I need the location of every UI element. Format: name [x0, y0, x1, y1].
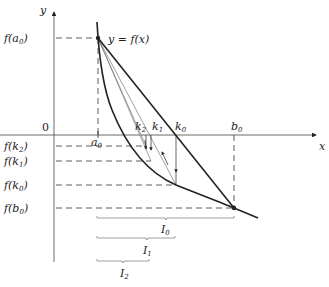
- projection-arrows: [145, 135, 176, 185]
- y-tick-f-k1: f(k1): [3, 155, 28, 169]
- y-tick-f-k0: f(k0): [3, 179, 28, 193]
- interval-brackets: [97, 216, 234, 263]
- curve-label: y = f(x): [107, 33, 149, 46]
- x-tick-k0: k0: [175, 120, 187, 134]
- interval-I2-label: I2: [119, 267, 129, 281]
- point-a0: [96, 36, 100, 40]
- y-tick-f-b0: f(b0): [3, 202, 28, 216]
- x-axis-label: x: [319, 140, 326, 153]
- interval-I1-label: I1: [142, 244, 152, 258]
- y-axis-label: y: [39, 4, 47, 17]
- x-tick-a0: a0: [91, 136, 103, 150]
- x-tick-k2: k2: [135, 120, 147, 134]
- x-tick-k1: k1: [152, 120, 163, 134]
- y-tick-f-k2: f(k2): [3, 140, 28, 154]
- x-tick-b0: b0: [231, 120, 243, 134]
- dashed-guides: [56, 38, 234, 208]
- secant-lines: [98, 38, 176, 185]
- point-b0: [232, 206, 236, 210]
- y-tick-f-a0: f(a0): [3, 32, 28, 46]
- interval-I0-label: I0: [160, 223, 170, 237]
- origin-label: 0: [42, 121, 49, 134]
- diagram-canvas: y x 0 y = f(x) a0 k2 k1 k0 b0 f(a0) f(k2…: [0, 0, 329, 287]
